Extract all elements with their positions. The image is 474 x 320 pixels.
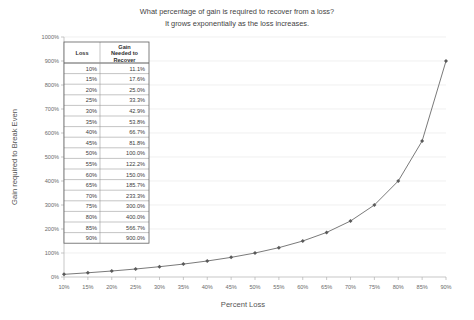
x-tick-label: 75% — [369, 284, 380, 290]
table-cell-loss: 60% — [86, 172, 97, 178]
x-tick-label: 10% — [58, 284, 69, 290]
data-point-marker — [110, 269, 114, 273]
table-header-gain-needed: Recover — [113, 57, 136, 63]
x-tick-label: 60% — [297, 284, 308, 290]
data-table: LossGainNeeded toRecover10%11.1%15%17.6%… — [64, 42, 149, 243]
data-point-marker — [62, 272, 66, 276]
table-cell-gain: 17.6% — [129, 76, 145, 82]
data-point-marker — [134, 267, 138, 271]
table-cell-gain: 33.3% — [129, 97, 145, 103]
data-point-marker — [277, 246, 281, 250]
chart-titles: What percentage of gain is required to r… — [140, 7, 334, 28]
table-cell-gain: 66.7% — [129, 129, 145, 135]
data-point-marker — [205, 259, 209, 263]
table-cell-loss: 75% — [86, 203, 97, 209]
table-cell-loss: 55% — [86, 161, 97, 167]
y-tick-label: 400% — [45, 178, 59, 184]
x-tick-label: 25% — [130, 284, 141, 290]
table-header-gain-needed: Gain — [118, 44, 131, 50]
x-tick-label: 45% — [226, 284, 237, 290]
x-tick-label: 50% — [249, 284, 260, 290]
x-tick-label: 55% — [273, 284, 284, 290]
y-tick-label: 200% — [45, 226, 59, 232]
x-axis-title: Percent Loss — [221, 300, 266, 309]
data-point-marker — [325, 230, 329, 234]
x-tick-label: 20% — [106, 284, 117, 290]
table-cell-loss: 65% — [86, 182, 97, 188]
y-tick-label: 700% — [45, 106, 59, 112]
data-point-marker — [444, 59, 448, 63]
x-tick-label: 80% — [393, 284, 404, 290]
x-axis-ticks: 10%15%20%25%30%35%40%45%50%55%60%65%70%7… — [58, 277, 451, 290]
x-tick-label: 35% — [178, 284, 189, 290]
table-cell-loss: 20% — [86, 87, 97, 93]
table-cell-loss: 45% — [86, 140, 97, 146]
table-cell-gain: 150.0% — [126, 172, 145, 178]
data-point-marker — [253, 251, 257, 255]
y-axis-title: Gain required to Break Even — [10, 109, 19, 205]
y-axis-ticks: 0%100%200%300%400%500%600%700%800%900%10… — [42, 34, 64, 280]
table-cell-gain: 400.0% — [126, 214, 145, 220]
table-cell-loss: 10% — [86, 66, 97, 72]
chart-title: What percentage of gain is required to r… — [140, 7, 334, 16]
table-cell-gain: 300.0% — [126, 203, 145, 209]
table-cell-gain: 122.2% — [126, 161, 145, 167]
table-cell-gain: 81.8% — [129, 140, 145, 146]
table-cell-loss: 90% — [86, 235, 97, 241]
table-cell-gain: 25.0% — [129, 87, 145, 93]
table-cell-gain: 185.7% — [126, 182, 145, 188]
y-tick-label: 0% — [51, 274, 59, 280]
table-cell-loss: 80% — [86, 214, 97, 220]
data-point-marker — [181, 262, 185, 266]
y-tick-label: 800% — [45, 82, 59, 88]
x-tick-label: 15% — [82, 284, 93, 290]
x-tick-label: 70% — [345, 284, 356, 290]
x-tick-label: 65% — [321, 284, 332, 290]
table-cell-gain: 900.0% — [126, 235, 145, 241]
table-cell-gain: 100.0% — [126, 150, 145, 156]
y-tick-label: 100% — [45, 250, 59, 256]
table-cell-gain: 566.7% — [126, 225, 145, 231]
x-tick-label: 90% — [440, 284, 451, 290]
x-tick-label: 85% — [417, 284, 428, 290]
table-cell-gain: 233.3% — [126, 193, 145, 199]
table-cell-gain: 11.1% — [130, 66, 145, 72]
table-cell-loss: 70% — [86, 193, 97, 199]
table-cell-loss: 15% — [86, 76, 97, 82]
data-point-marker — [86, 271, 90, 275]
table-cell-loss: 50% — [86, 150, 97, 156]
data-point-marker — [158, 265, 162, 269]
x-tick-label: 30% — [154, 284, 165, 290]
table-cell-loss: 85% — [86, 225, 97, 231]
chart-canvas: What percentage of gain is required to r… — [0, 0, 474, 320]
table-header-gain-needed: Needed to — [111, 50, 139, 56]
table-cell-loss: 35% — [86, 119, 97, 125]
data-point-marker — [301, 239, 305, 243]
table-cell-gain: 53.8% — [129, 119, 145, 125]
y-tick-label: 1000% — [42, 34, 59, 40]
x-tick-label: 40% — [202, 284, 213, 290]
table-cell-gain: 42.9% — [129, 108, 145, 114]
table-cell-loss: 25% — [86, 97, 97, 103]
data-point-marker — [229, 255, 233, 259]
y-tick-label: 900% — [45, 58, 59, 64]
table-cell-loss: 40% — [86, 129, 97, 135]
y-tick-label: 300% — [45, 202, 59, 208]
y-tick-label: 500% — [45, 154, 59, 160]
table-cell-loss: 30% — [86, 108, 97, 114]
y-tick-label: 600% — [45, 130, 59, 136]
chart-subtitle: It grows exponentially as the loss incre… — [165, 19, 309, 28]
table-header-loss: Loss — [75, 50, 88, 56]
